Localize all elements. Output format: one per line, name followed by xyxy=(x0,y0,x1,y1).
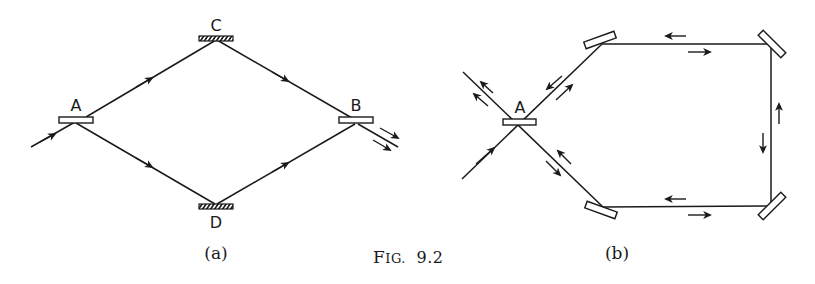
label-c: C xyxy=(210,16,221,35)
beam-nw-se xyxy=(463,72,603,207)
caption-prefix-initial: F xyxy=(373,247,385,267)
output-arrow-icon xyxy=(380,128,398,138)
arrow-icon xyxy=(476,148,494,164)
panel-b-sagnac: A (b) xyxy=(462,30,786,263)
figure-9-2: A C B D (a) FIG. 9.2 xyxy=(0,0,815,284)
panel-b-sublabel: (b) xyxy=(605,243,629,263)
arrow-icon xyxy=(272,163,288,172)
caption-number: 9.2 xyxy=(417,248,444,267)
beam-bottom xyxy=(603,206,771,207)
caption-prefix-rest: IG. xyxy=(385,251,406,266)
beam-splitter-a xyxy=(503,119,536,125)
panel-a-mach-zehnder: A C B D (a) xyxy=(31,16,398,263)
label-a: A xyxy=(515,98,526,117)
beam-splitter-a xyxy=(59,117,93,123)
mirror-lower-left xyxy=(585,201,617,219)
label-d: D xyxy=(210,213,222,232)
beam-sw-ne xyxy=(462,44,602,179)
arrow-icon xyxy=(40,134,55,142)
panel-a-sublabel: (a) xyxy=(204,243,227,263)
label-a: A xyxy=(71,96,82,115)
arrow-icon xyxy=(547,76,562,89)
beam-splitter-b xyxy=(339,117,373,123)
label-b: B xyxy=(351,96,362,115)
arrow-icon xyxy=(136,158,152,167)
arrow-icon xyxy=(558,151,571,164)
mirror-c xyxy=(199,36,233,41)
svg-text:FIG. 9.2: FIG. 9.2 xyxy=(373,247,444,267)
arrow-icon xyxy=(136,78,152,87)
arrow-icon xyxy=(272,72,288,81)
mirror-d xyxy=(199,204,233,209)
arrow-icon xyxy=(474,94,488,106)
arrow-icon xyxy=(556,85,572,100)
figure-caption: FIG. 9.2 xyxy=(373,247,444,267)
